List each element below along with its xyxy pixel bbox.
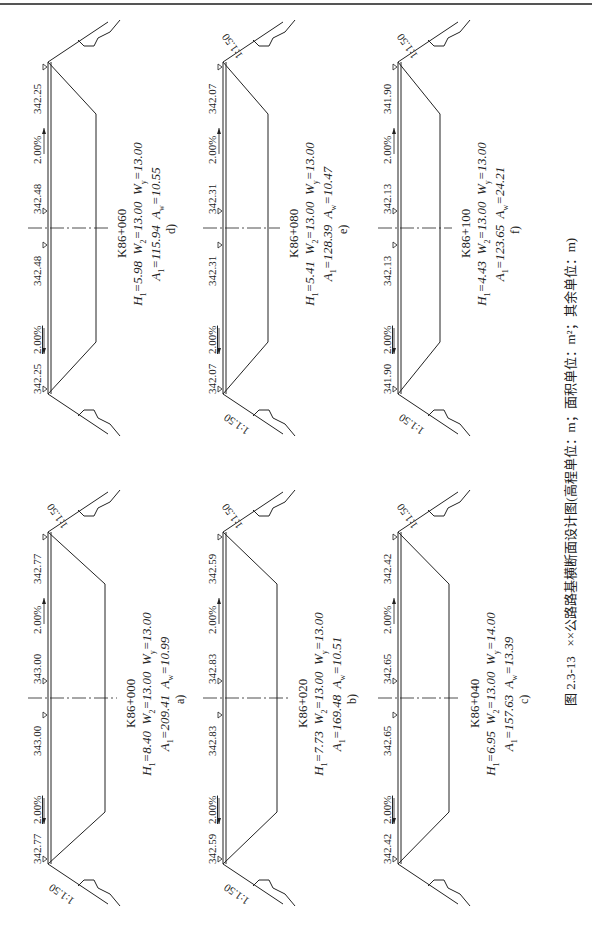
section-parameters: H1=7.73 W2=13.00 Wy=13.00A1=169.48 Aw=10… [311,594,346,794]
h1-value: 6.95 [483,731,498,754]
aw-value: 13.39 [501,637,516,666]
section-parameters: H1=5.41 W2=13.00 Wy=13.00A1=128.39 Aw=10… [302,124,337,324]
rotated-figure-page: 342.772.00%343.00343.002.00%342.771:1.50… [0,0,592,944]
left-edge-elevation: 342.42 [382,834,393,864]
left-edge-elevation: 342.25 [32,364,43,394]
a1-value: 169.48 [329,695,344,731]
right-edge-elevation: 342.07 [207,84,218,114]
right-crossfall: 2.00% [207,136,218,164]
h1-value: 7.73 [311,731,326,754]
wy-value: 13.00 [474,142,489,171]
right-edge-elevation: 342.77 [32,554,43,584]
h1-value: 5.98 [130,261,145,284]
left-center-elevation: 342.83 [207,726,218,756]
right-edge-elevation: 342.25 [32,84,43,114]
w2-value: 13.00 [302,202,317,231]
left-center-elevation: 342.13 [382,256,393,286]
right-center-elevation: 342.83 [207,654,218,684]
section-parameters: H1=5.98 W2=13.00 Wy=13.00A1=115.94 Aw=10… [130,124,165,324]
cross-section-e: 342.072.00%342.31342.312.00%342.071:1.50… [195,2,375,454]
h1-value: 4.43 [474,261,489,284]
left-crossfall: 2.00% [32,326,43,354]
h1-value: 5.41 [302,261,317,284]
left-center-elevation: 342.48 [32,256,43,286]
w2-value: 13.00 [311,672,326,701]
aw-value: 24.21 [492,167,507,196]
subfigure-tag: e) [336,225,351,234]
right-edge-elevation: 341.90 [382,84,393,114]
left-edge-elevation: 342.07 [207,364,218,394]
h1-value: 8.40 [139,731,154,754]
wy-value: 13.00 [139,612,154,641]
cross-section-c: 342.422.00%342.65342.652.00%342.421:1.50… [370,472,550,924]
right-center-elevation: 342.13 [382,184,393,214]
wy-value: 13.00 [302,142,317,171]
left-crossfall: 2.00% [32,796,43,824]
caption-number: 图 2.3-13 [563,656,578,706]
right-crossfall: 2.00% [32,606,43,634]
aw-value: 10.55 [148,167,163,196]
w2-value: 13.00 [139,672,154,701]
station-label: K86+040 [467,679,483,728]
figure-caption: 图 2.3-13 ××公路路基横断面设计图(高程单位：m；面积单位：m²；其余单… [560,0,579,944]
right-center-elevation: 343.00 [32,654,43,684]
subfigure-tag: c) [517,695,532,704]
aw-value: 10.99 [157,637,172,666]
left-edge-elevation: 342.59 [207,834,218,864]
left-center-elevation: 342.65 [382,726,393,756]
left-center-elevation: 342.31 [207,256,218,286]
w2-value: 13.00 [130,202,145,231]
aw-value: 10.51 [329,637,344,666]
a1-value: 157.63 [501,695,516,731]
right-edge-elevation: 342.59 [207,554,218,584]
left-crossfall: 2.00% [382,796,393,824]
left-edge-elevation: 342.77 [32,834,43,864]
station-label: K86+100 [458,209,474,258]
right-edge-elevation: 342.42 [382,554,393,584]
section-parameters: H1=8.40 W2=13.00 Wy=13.00A1=209.41 Aw=10… [139,594,174,794]
w2-value: 13.00 [483,672,498,701]
station-label: K86+000 [123,679,139,728]
right-crossfall: 2.00% [382,136,393,164]
section-parameters: H1=6.95 W2=13.00 Wy=14.00A1=157.63 Aw=13… [483,594,518,794]
station-label: K86+060 [114,209,130,258]
wy-value: 13.00 [311,612,326,641]
right-center-elevation: 342.31 [207,184,218,214]
left-crossfall: 2.00% [382,326,393,354]
cross-section-a: 342.772.00%343.00343.002.00%342.771:1.50… [20,472,200,924]
caption-text: ××公路路基横断面设计图(高程单位：m；面积单位：m²；其余单位：m) [563,238,578,647]
w2-value: 13.00 [474,202,489,231]
left-center-elevation: 343.00 [32,726,43,756]
right-center-elevation: 342.48 [32,184,43,214]
right-crossfall: 2.00% [382,606,393,634]
subfigure-tag: d) [164,224,179,234]
a1-value: 128.39 [320,225,335,261]
wy-value: 14.00 [483,612,498,641]
a1-value: 115.94 [148,225,163,260]
aw-value: 10.47 [320,167,335,196]
wy-value: 13.00 [130,142,145,171]
subfigure-tag: b) [345,694,360,704]
subfigure-tag: a) [173,695,188,704]
station-label: K86+080 [286,209,302,258]
a1-value: 209.41 [157,695,172,731]
section-parameters: H1=4.43 W2=13.00 Wy=13.00A1=123.65 Aw=24… [474,124,509,324]
left-crossfall: 2.00% [207,326,218,354]
cross-section-f: 341.902.00%342.13342.132.00%341.901:1.50… [370,2,550,454]
a1-value: 123.65 [492,225,507,261]
cross-section-d: 342.252.00%342.48342.482.00%342.25K86+06… [20,2,200,454]
left-edge-elevation: 341.90 [382,364,393,394]
right-crossfall: 2.00% [32,136,43,164]
left-crossfall: 2.00% [207,796,218,824]
right-center-elevation: 342.65 [382,654,393,684]
cross-section-b: 342.592.00%342.83342.832.00%342.591:1.50… [195,472,375,924]
station-label: K86+020 [295,679,311,728]
subfigure-tag: f) [508,226,523,234]
right-crossfall: 2.00% [207,606,218,634]
